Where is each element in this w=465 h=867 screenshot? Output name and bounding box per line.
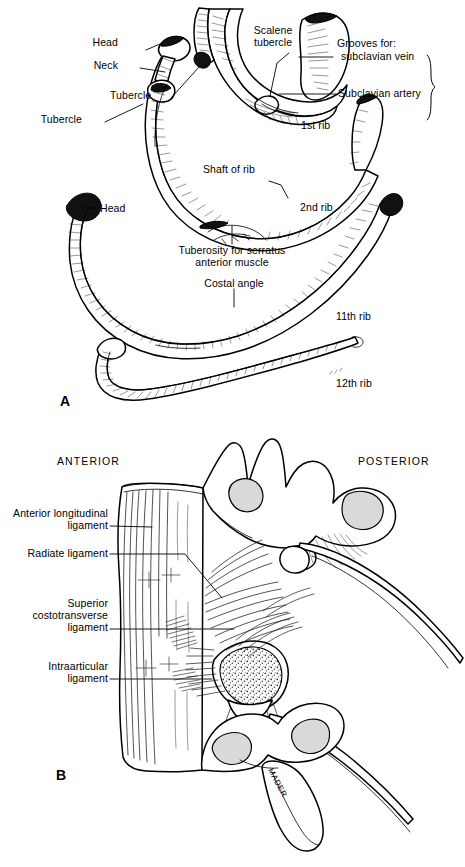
label-head-second-rib: Head	[56, 37, 118, 49]
label-twelfth-rib: 12th rib	[336, 378, 372, 390]
label-anterior-longitudinal-ligament-line1: Anterior longitudinal	[0, 508, 108, 520]
label-tubercle-second-rib: Tubercle	[20, 114, 82, 126]
label-intraarticular-ligament-line1: Intraarticular	[0, 661, 108, 673]
anatomy-figure: MADER Head Neck Tubercle Tubercle Scalen…	[0, 0, 465, 867]
label-second-rib: 2nd rib	[300, 202, 333, 214]
label-scalene-tubercle-line2: tubercle	[240, 37, 306, 49]
label-anterior-longitudinal-ligament-line2: ligament	[0, 520, 108, 532]
label-neck: Neck	[56, 60, 118, 72]
label-superior-costotransverse-ligament-line2: costotransverse	[0, 610, 108, 622]
label-subclavian-vein: subclavian vein	[341, 51, 414, 63]
panel-letter-a: A	[60, 393, 70, 409]
panel-letter-b: B	[56, 767, 66, 783]
panel-b-illustration: MADER	[110, 439, 463, 851]
label-superior-costotransverse-ligament-line3: ligament	[0, 622, 108, 634]
label-head-eleventh-rib: Head	[100, 203, 126, 215]
label-costal-angle: Costal angle	[177, 278, 291, 290]
label-scalene-tubercle-line1: Scalene	[240, 25, 306, 37]
upper-rib	[280, 543, 463, 668]
label-tubercle-first-rib: Tubercle	[110, 90, 151, 102]
second-rib-drawing	[145, 36, 382, 250]
label-tuberosity-line2: anterior muscle	[154, 257, 310, 269]
label-first-rib: 1st rib	[301, 120, 330, 132]
label-eleventh-rib: 11th rib	[336, 311, 371, 323]
label-shaft-of-rib: Shaft of rib	[203, 164, 255, 176]
label-superior-costotransverse-ligament-line1: Superior	[0, 598, 108, 610]
label-radiate-ligament: Radiate ligament	[0, 548, 108, 560]
label-intraarticular-ligament-line2: ligament	[0, 673, 108, 685]
label-subclavian-artery: Subclavian artery	[338, 88, 421, 100]
figure-illustration: MADER	[0, 0, 465, 867]
orientation-anterior: ANTERIOR	[57, 455, 120, 467]
orientation-posterior: POSTERIOR	[358, 455, 430, 467]
label-tuberosity-line1: Tuberosity for serratus	[154, 245, 310, 257]
label-grooves-for: Grooves for:	[337, 38, 396, 50]
